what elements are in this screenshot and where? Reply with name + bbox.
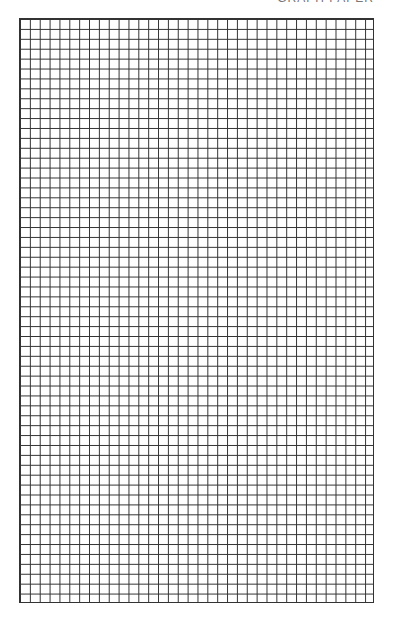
graph-paper-grid [19, 18, 374, 603]
page-header-text: GRAPH PAPER [277, 0, 374, 5]
